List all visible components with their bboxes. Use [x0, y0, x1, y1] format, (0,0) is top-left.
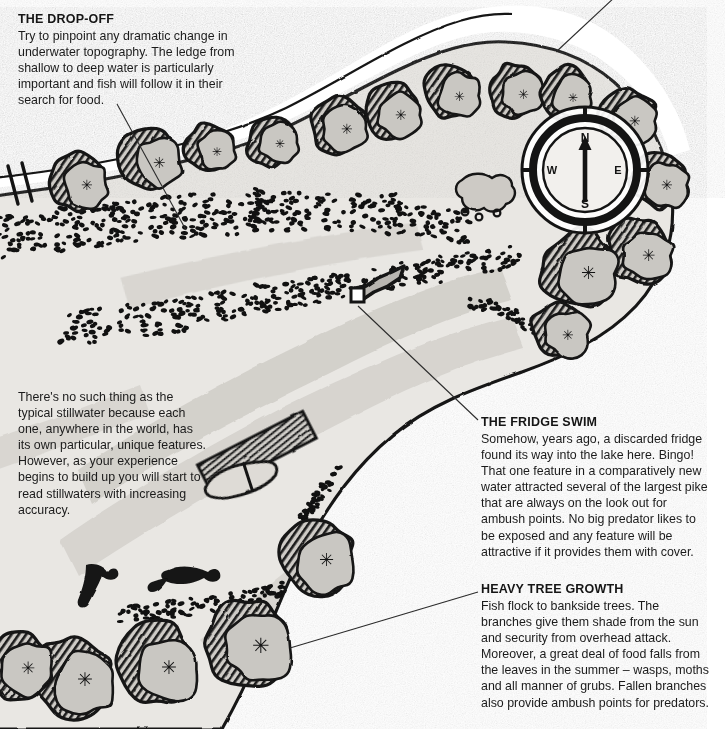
callout-fridge-swim: THE FRIDGE SWIM Somehow, years ago, a di… [481, 415, 713, 560]
tree-centre-mark: ✳ [568, 91, 578, 105]
tree-centre-mark: ✳ [518, 87, 529, 102]
tree-centre-mark: ✳ [212, 145, 222, 159]
tree-centre-mark: ✳ [252, 634, 270, 657]
callout-heavy-tree-growth-body: Fish flock to bankside trees. The branch… [481, 598, 713, 711]
tree-centre-mark: ✳ [275, 137, 285, 151]
tree-centre-mark: ✳ [341, 121, 353, 137]
leader-heavy-tree-growth [290, 592, 478, 648]
callout-heavy-tree-growth: HEAVY TREE GROWTH Fish flock to bankside… [481, 582, 713, 711]
tree-canopy: ✳ [247, 117, 299, 167]
tree-centre-mark: ✳ [153, 154, 166, 171]
callout-fridge-swim-title: THE FRIDGE SWIM [481, 415, 713, 429]
note-stillwater-body: There's no such thing as the typical sti… [18, 389, 208, 518]
map-figure: ✳✳✳✳✳✳✳✳✳✳✳✳✳✳✳✳✳✳✳ N E S W [0, 0, 727, 729]
compass-label-east: E [614, 164, 621, 176]
tree-centre-mark: ✳ [581, 263, 596, 283]
tree-centre-mark: ✳ [562, 327, 574, 343]
tree-centre-mark: ✳ [21, 659, 35, 678]
stipple-dot [143, 616, 150, 619]
callout-fridge-swim-body: Somehow, years ago, a discarded fridge f… [481, 431, 713, 560]
tree-canopy: ✳ [117, 128, 182, 189]
compass-label-north: N [581, 131, 590, 145]
tree-centre-mark: ✳ [642, 247, 655, 264]
stipple-dot [189, 225, 195, 228]
tree-centre-mark: ✳ [454, 89, 465, 104]
callout-drop-off-title: THE DROP-OFF [18, 12, 236, 26]
tree-canopy: ✳ [279, 520, 354, 597]
tree-canopy: ✳ [49, 151, 108, 211]
callout-drop-off: THE DROP-OFF Try to pinpoint any dramati… [18, 12, 236, 108]
tree-centre-mark: ✳ [395, 107, 407, 123]
compass-rose: N E S W [521, 106, 649, 234]
stipple-dot [5, 217, 12, 220]
stipple-dot [252, 594, 257, 597]
tree-centre-mark: ✳ [661, 177, 673, 193]
tree-centre-mark: ✳ [77, 669, 93, 690]
tree-centre-mark: ✳ [319, 550, 334, 570]
stipple-dot [459, 239, 464, 242]
tree-centre-mark: ✳ [161, 657, 177, 678]
stipple-dot [179, 235, 184, 239]
stipple-dot [413, 276, 419, 280]
note-stillwater: There's no such thing as the typical sti… [18, 389, 208, 518]
tree-canopy: ✳ [205, 600, 291, 686]
stipple-dot [376, 221, 381, 225]
stipple-dot [350, 229, 354, 233]
compass-label-west: W [547, 164, 558, 176]
callout-heavy-tree-growth-title: HEAVY TREE GROWTH [481, 582, 713, 596]
callout-drop-off-body: Try to pinpoint any dramatic change in u… [18, 28, 236, 108]
compass-label-south: S [581, 197, 589, 211]
tree-centre-mark: ✳ [81, 177, 93, 193]
